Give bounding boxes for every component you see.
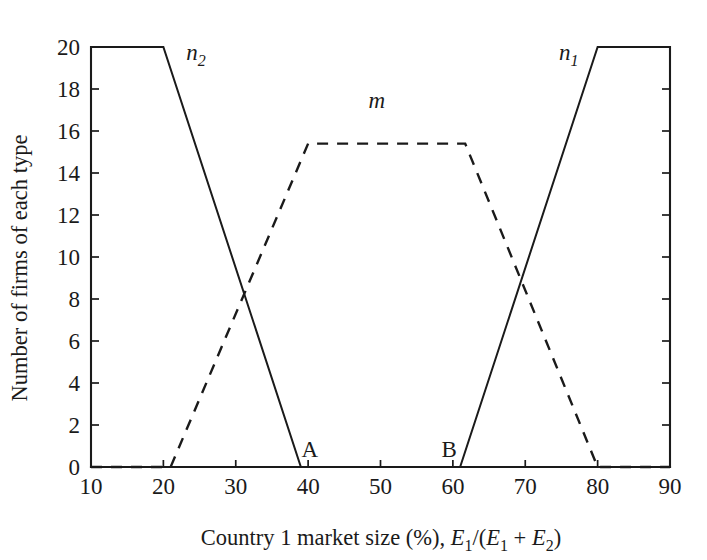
y-tick-label: 12	[57, 203, 80, 228]
series-labels: n2n1m	[186, 40, 578, 113]
y-tick-label: 16	[57, 119, 80, 144]
x-tick-label: 70	[514, 474, 537, 499]
y-tick-label: 8	[69, 287, 81, 312]
y-axis-title: Number of firms of each type	[7, 135, 32, 402]
series-label-m: m	[369, 88, 386, 113]
y-axis-ticks: 02468101214161820	[57, 35, 670, 480]
plot-area: 102030405060708090 02468101214161820 n2n…	[57, 35, 682, 499]
series-label-n2: n2	[186, 40, 206, 69]
y-tick-label: 2	[69, 413, 81, 438]
series-label-n1: n1	[559, 40, 579, 69]
x-tick-label: 30	[224, 474, 247, 499]
annotation-a: A	[302, 437, 319, 462]
y-tick-label: 0	[69, 455, 81, 480]
x-tick-label: 50	[369, 474, 392, 499]
chart-figure: 102030405060708090 02468101214161820 n2n…	[0, 0, 707, 560]
x-axis-title: Country 1 market size (%), E1/(E1 + E2)	[201, 525, 561, 554]
y-tick-label: 20	[57, 35, 80, 60]
y-tick-label: 18	[57, 77, 80, 102]
x-tick-label: 60	[441, 474, 464, 499]
x-tick-label: 40	[297, 474, 320, 499]
y-tick-label: 4	[69, 371, 81, 396]
x-tick-label: 90	[659, 474, 682, 499]
chart-canvas: 102030405060708090 02468101214161820 n2n…	[0, 0, 707, 560]
x-tick-label: 80	[586, 474, 609, 499]
y-tick-label: 6	[69, 329, 81, 354]
y-tick-label: 14	[57, 161, 81, 186]
y-tick-label: 10	[57, 245, 80, 270]
series-line-m	[91, 144, 670, 467]
annotation-b: B	[441, 437, 456, 462]
point-annotations: AB	[302, 437, 457, 462]
x-tick-label: 10	[80, 474, 103, 499]
x-tick-label: 20	[152, 474, 175, 499]
